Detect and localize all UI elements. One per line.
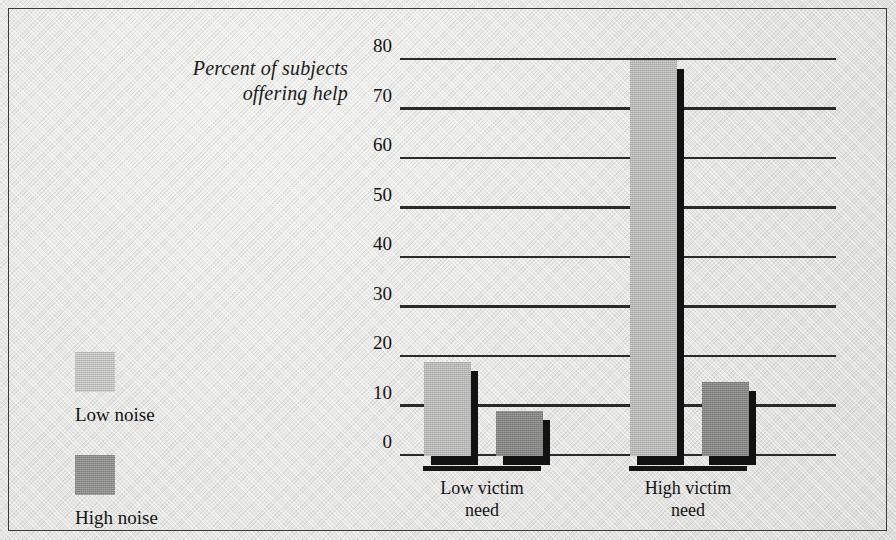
- bar-high-noise-high-victim-need: [702, 382, 749, 456]
- y-axis-label: Percent of subjects offering help: [148, 56, 348, 106]
- y-axis-tick-label: 40: [358, 233, 392, 255]
- y-axis-tick-label: 60: [358, 134, 392, 156]
- high-noise-swatch: [75, 455, 115, 495]
- y-axis-label-line1: Percent of subjects: [148, 56, 348, 81]
- y-axis-tick-label: 20: [358, 332, 392, 354]
- category-label-line2: need: [626, 499, 750, 521]
- legend-label: High noise: [75, 507, 158, 529]
- plot-area: 01020304050607080: [358, 60, 836, 456]
- low-noise-swatch: [75, 352, 115, 392]
- category-label-line1: Low victim: [420, 477, 544, 499]
- bar-group-container: [400, 60, 836, 456]
- y-axis-tick-label: 80: [358, 35, 392, 57]
- legend-label: Low noise: [75, 404, 155, 426]
- category-label-line1: High victim: [626, 477, 750, 499]
- x-axis-category-low-victim-need: Low victimneed: [420, 466, 544, 521]
- bar-low-noise-high-victim-need: [630, 60, 677, 456]
- y-axis-tick-label: 70: [358, 85, 392, 107]
- bar-face: [702, 382, 749, 456]
- bar-face: [424, 362, 471, 456]
- y-axis-tick-label: 50: [358, 184, 392, 206]
- legend-item-low-noise: Low noise: [75, 352, 155, 426]
- bar-face: [630, 60, 677, 456]
- y-axis-label-line2: offering help: [148, 81, 348, 106]
- y-axis-tick-label: 10: [358, 382, 392, 404]
- bar-face: [496, 411, 543, 456]
- legend-item-high-noise: High noise: [75, 455, 158, 529]
- y-axis-tick-label: 0: [358, 431, 392, 453]
- y-axis-tick-label: 30: [358, 283, 392, 305]
- x-axis-category-high-victim-need: High victimneed: [626, 466, 750, 521]
- bar-low-noise-low-victim-need: [424, 362, 471, 456]
- chart-figure: Percent of subjects offering help 010203…: [0, 0, 896, 540]
- category-rule: [629, 466, 747, 471]
- bar-high-noise-low-victim-need: [496, 411, 543, 456]
- category-rule: [423, 466, 541, 471]
- category-label-line2: need: [420, 499, 544, 521]
